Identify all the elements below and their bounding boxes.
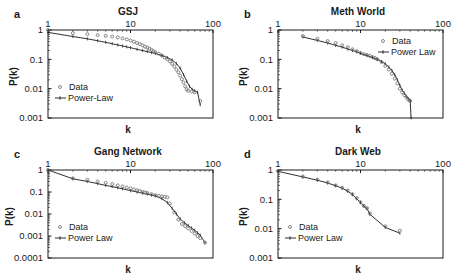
data-point (116, 36, 119, 39)
y-tick-label: 1 (38, 24, 43, 35)
panel-b-xlabel: k (278, 124, 438, 135)
data-point (398, 87, 401, 90)
data-point (393, 77, 396, 80)
data-point (390, 72, 393, 75)
legend-fit-label: Power-Law (68, 93, 114, 103)
panel-c-plot: 11010010.10.010.0010.0001DataPower Law (0, 140, 229, 279)
legend-fit-label: Power Law (391, 47, 436, 57)
y-tick-label: 0.01 (255, 223, 274, 234)
panel-d: d Dark Web 11010010.10.010.001DataPower … (230, 140, 459, 279)
y-tick-label: 0.01 (25, 208, 44, 219)
x-tick-label: 100 (435, 18, 451, 29)
legend-data-label: Data (392, 36, 411, 46)
legend-data-label: Data (299, 222, 318, 232)
x-tick-label: 100 (205, 158, 221, 169)
legend-data-marker (59, 226, 62, 229)
x-tick-label: 100 (205, 18, 221, 29)
panel-b-ylabel: P(k) (238, 67, 249, 86)
panel-a-ylabel: P(k) (8, 67, 19, 86)
x-tick-label: 1 (45, 18, 50, 29)
y-tick-label: 0.001 (249, 252, 273, 263)
panel-c: c Gang Network 11010010.10.010.0010.0001… (0, 140, 229, 279)
data-point (182, 81, 185, 84)
x-tick-label: 10 (125, 18, 136, 29)
panel-d-plot: 11010010.10.010.001DataPower Law (230, 140, 459, 279)
data-point (96, 34, 99, 37)
y-tick-label: 0.1 (30, 186, 43, 197)
data-point (168, 60, 171, 63)
legend-data-marker (382, 40, 385, 43)
y-tick-label: 0.1 (260, 194, 273, 205)
data-point (132, 188, 135, 191)
figure-root: a GSJ 11010010.10.010.001DataPower-Law P… (0, 0, 459, 279)
panel-a: a GSJ 11010010.10.010.001DataPower-Law P… (0, 0, 229, 139)
power-law-line (278, 171, 400, 233)
data-point (177, 71, 180, 74)
data-point (86, 33, 89, 36)
x-tick-label: 10 (125, 158, 136, 169)
y-tick-label: 1 (38, 164, 43, 175)
y-tick-label: 0.001 (19, 112, 43, 123)
data-point (71, 32, 74, 35)
data-point (179, 74, 182, 77)
x-tick-label: 10 (355, 18, 366, 29)
data-point (193, 232, 196, 235)
legend-fit-label: Power Law (68, 233, 113, 243)
panel-d-xlabel: k (278, 264, 438, 275)
data-point (129, 39, 132, 42)
legend-data-label: Data (69, 222, 88, 232)
panel-c-xlabel: k (48, 264, 208, 275)
data-point (180, 78, 183, 81)
data-point (396, 82, 399, 85)
data-point (180, 223, 183, 226)
data-point (175, 68, 178, 71)
x-tick-label: 100 (435, 158, 451, 169)
x-tick-label: 1 (275, 18, 280, 29)
panel-d-ylabel: P(k) (238, 207, 249, 226)
x-tick-label: 10 (355, 158, 366, 169)
x-tick-label: 1 (275, 158, 280, 169)
y-tick-label: 1 (268, 164, 273, 175)
y-tick-label: 0.01 (25, 83, 44, 94)
panel-b-plot: 11010010.10.010.001DataPower Law (230, 0, 459, 139)
data-point (132, 40, 135, 43)
data-point (196, 235, 199, 238)
data-point (104, 34, 107, 37)
x-tick-label: 1 (45, 158, 50, 169)
data-point (184, 225, 187, 228)
panel-c-ylabel: P(k) (4, 207, 15, 226)
legend-fit-label: Power Law (298, 233, 343, 243)
panel-a-plot: 11010010.10.010.001DataPower-Law (0, 0, 229, 139)
data-point (190, 90, 193, 93)
panel-b: b Meth World 11010010.10.010.001DataPowe… (230, 0, 459, 139)
y-tick-label: 0.1 (260, 54, 273, 65)
data-point (173, 65, 176, 68)
data-point (177, 218, 180, 221)
y-tick-label: 1 (268, 24, 273, 35)
y-tick-label: 0.001 (249, 112, 273, 123)
data-point (111, 35, 114, 38)
y-tick-label: 0.1 (30, 54, 43, 65)
data-point (199, 237, 202, 240)
data-point (171, 62, 174, 65)
data-point (125, 186, 128, 189)
y-tick-label: 0.001 (19, 230, 43, 241)
legend-data-marker (59, 86, 62, 89)
data-point (121, 37, 124, 40)
data-point (184, 85, 187, 88)
y-tick-label: 0.0001 (14, 252, 43, 263)
legend-data-label: Data (69, 82, 88, 92)
data-point (125, 38, 128, 41)
legend-data-marker (289, 226, 292, 229)
data-point (190, 229, 193, 232)
panel-a-xlabel: k (48, 124, 208, 135)
data-point (168, 202, 171, 205)
y-tick-label: 0.01 (255, 83, 274, 94)
data-point (187, 227, 190, 230)
